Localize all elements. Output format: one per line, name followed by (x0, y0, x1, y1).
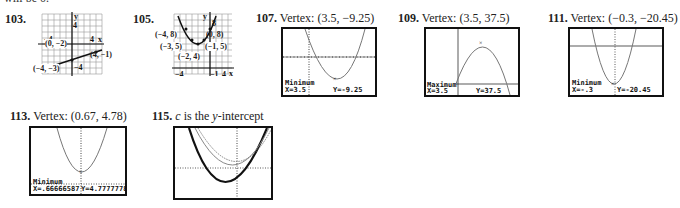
answer-number-105: 105. (133, 12, 154, 27)
svg-text:×: × (479, 40, 482, 46)
calculator-screen-107: × Minimum X=3.5 Y=-9.25 (281, 27, 377, 97)
screen-y-readout: Y=37.5 (476, 87, 501, 95)
calculator-screen-115 (173, 126, 273, 200)
answer-number-107: 107. (256, 11, 277, 25)
point-label: (0, −2) (45, 39, 67, 48)
screen-y-readout: Y=-20.45 (617, 86, 651, 94)
screen-x-readout: X=.66666587 (33, 185, 79, 193)
calculator-screen-109: × Maximum X=3.5 Y=37.5 (424, 27, 520, 97)
screen-x-readout: X=3.5 (285, 86, 306, 94)
answer-107-label: 107. Vertex: (3.5, −9.25) (256, 11, 374, 26)
point-label: (−2, 4) (178, 52, 200, 61)
point-label: (−3, 5) (160, 42, 182, 51)
point-label: (0, 8) (206, 30, 223, 39)
x-tick-right: 4 (222, 70, 226, 76)
point-label: (4, −1) (90, 50, 112, 59)
point-label: (−1, 5) (205, 42, 227, 51)
answer-number-103: 103. (5, 12, 26, 27)
y-tick-top: 4 (73, 21, 77, 30)
vertex-text: Vertex: (3.5, −9.25) (280, 11, 374, 25)
answer-115-label: 115. c is the y-intercept (152, 109, 264, 124)
screen-x-readout: X=3.5 (427, 87, 448, 95)
screen-x-readout: X=-.3 (572, 86, 593, 94)
point-label: (−4, −3) (33, 64, 59, 73)
calculator-screen-111: × Minimum X=-.3 Y=-20.45 (568, 27, 664, 97)
x-tick-right: 4 (90, 35, 94, 44)
answer-number-113: 113. (10, 109, 30, 123)
x-tick-neg1: −1 (210, 70, 219, 76)
label-text: is the (181, 109, 213, 123)
svg-text:×: × (611, 81, 614, 87)
previous-text-fragment: will be 0. (4, 0, 49, 6)
x-axis-label: x (98, 35, 102, 44)
vertex-text: Vertex: (−0.3, −20.45) (570, 11, 677, 25)
label-text: -intercept (218, 109, 264, 123)
answer-number-109: 109. (398, 11, 419, 25)
svg-text:×: × (333, 76, 336, 82)
answer-109-label: 109. Vertex: (3.5, 37.5) (398, 11, 509, 26)
y-tick-top: 8 (212, 19, 216, 28)
vertex-text: Vertex: (3.5, 37.5) (422, 11, 510, 25)
answer-111-label: 111. Vertex: (−0.3, −20.45) (548, 11, 678, 26)
answer-113-label: 113. Vertex: (0.67, 4.78) (10, 109, 127, 124)
answer-number-115: 115. (152, 109, 172, 123)
screen-y-readout: Y=-9.25 (333, 86, 363, 94)
x-tick-left: −4 (175, 70, 184, 76)
y-tick-bottom: −4 (74, 63, 83, 72)
x-axis-label: x (229, 69, 233, 76)
calculator-screen-113: × Minimum X=.66666587 Y=4.7777778 (29, 126, 127, 196)
svg-text:×: × (79, 169, 82, 175)
answer-number-111: 111. (548, 11, 568, 25)
vertex-text: Vertex: (0.67, 4.78) (33, 109, 127, 123)
screen-y-readout: Y=4.7777778 (81, 185, 125, 193)
point-label: (−4, 8) (155, 30, 177, 39)
y-axis-label: y (74, 12, 78, 21)
y-axis-label: y (203, 12, 207, 21)
